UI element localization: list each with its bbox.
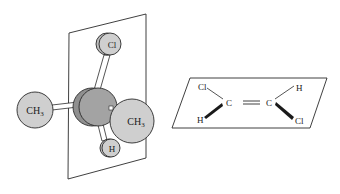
atom-h-bottom: H — [100, 139, 120, 157]
atom-c2: C — [266, 98, 272, 108]
molecular-plane — [172, 78, 327, 128]
atom-cl-lower-right: Cl — [295, 116, 304, 126]
atom-label: Cl — [108, 40, 117, 50]
atom-c1: C — [226, 98, 232, 108]
atom-h-upper-right: H — [296, 83, 303, 93]
atom-label: H — [109, 144, 116, 154]
atom-ch3-right: CH3 — [110, 99, 154, 143]
atom-cl-upper-left: Cl — [198, 82, 207, 92]
atom-h-lower-left: H — [197, 115, 204, 125]
atom-ch3-left: CH3 — [17, 92, 53, 128]
atom-cl-top: Cl — [96, 33, 121, 55]
figure: CH3 Cl H CH3 Cl H C C H Cl — [0, 0, 340, 194]
trans-dichloroethene: Cl H C C H Cl — [197, 82, 304, 126]
